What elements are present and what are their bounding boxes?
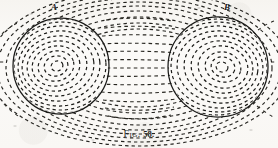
figure-caption: Fig. 58. [0, 130, 278, 140]
neutral-gap-rows [100, 18, 179, 119]
pole-label-b: B [224, 3, 230, 12]
magnetic-field-diagram [0, 0, 278, 148]
pole-b-outline [168, 17, 268, 117]
pole-a [8, 18, 116, 114]
pole-a-outline [13, 18, 109, 114]
figure-panel: A B Fig. 58. [0, 0, 278, 148]
caption-fig-word: Fig. [124, 129, 141, 139]
caption-fig-number: 58. [143, 129, 154, 139]
pole-b [161, 17, 273, 117]
pole-label-a: A [51, 3, 57, 12]
